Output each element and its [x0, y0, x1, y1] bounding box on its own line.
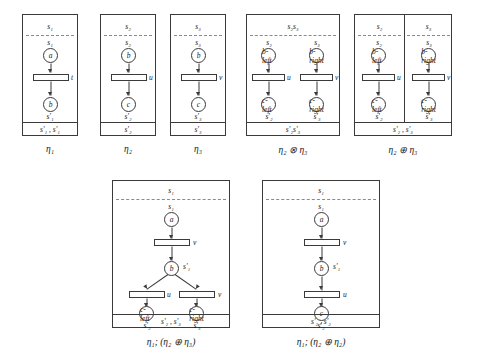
transition-u-label: u [397, 74, 401, 82]
figure-canvas: s₁ s₁ a t b s'₁ s'₁ , s'₁ η₁ s₂ s₂ b [0, 0, 478, 362]
transition-u [362, 74, 395, 81]
place-b-label: s'₁ [333, 263, 340, 271]
net-eta2-sum-eta3: s₂ s₃ s₂ b-left u c-left s'₂ s₃ b-right … [354, 14, 452, 136]
place-c-left-label: s'₂ [367, 113, 391, 121]
transition-t [33, 74, 69, 81]
place-b-left-name: b-left [262, 47, 275, 65]
place-b-name: b [320, 264, 324, 273]
place-b-name: b [127, 51, 131, 60]
transition-u-bottom-label: u [167, 291, 171, 299]
bottom-interface-label: s'₂ , s'₃ [113, 318, 229, 326]
transition-u-label: u [287, 74, 291, 82]
place-c-left-name: c-left [262, 96, 275, 114]
arrowhead-bl-u [266, 69, 270, 73]
arrowhead-a-t [48, 69, 52, 73]
place-b-left-label: s₂ [367, 39, 391, 47]
top-interface-label: s₂ [101, 23, 155, 31]
place-c-left: c-left [261, 97, 276, 112]
arrowhead-b-u [126, 69, 130, 73]
place-c-left-name: c-left [372, 96, 385, 114]
place-b: b [121, 48, 136, 63]
top-interface-rule [250, 35, 336, 36]
place-b-label: s'₁ [183, 263, 190, 271]
caption-tensor: η₂ ⊗ η₃ [246, 144, 340, 155]
bottom-interface-label: s'₂ [101, 126, 155, 134]
place-b: b [43, 97, 58, 112]
place-c: c [121, 97, 136, 112]
top-interface-rule [26, 35, 74, 36]
top-interface-rule [104, 35, 152, 36]
place-b-left: b-left [371, 48, 386, 63]
bottom-interface-rule [247, 122, 339, 123]
bottom-interface-rule [101, 122, 155, 123]
transition-u-bottom [129, 291, 165, 298]
place-c-name: c [127, 100, 130, 109]
top-interface-label: s₁ [263, 187, 379, 195]
place-b-left-name: b-left [372, 47, 385, 65]
place-a: a [43, 48, 58, 63]
top-interface-label: s₂s₃ [247, 23, 339, 31]
net-eta2: s₂ s₂ b u c s'₂ s'₂ η₂ [100, 14, 156, 136]
place-b-right-name: b-right [421, 47, 436, 65]
place-a-name: a [320, 215, 324, 224]
caption-seq-sum-22: η₁; (η₂ ⊕ η₂) [262, 336, 380, 347]
place-b-label: s₂ [101, 39, 155, 47]
top-interface-rule [116, 199, 226, 200]
top-interface-rule-left [358, 35, 401, 36]
place-a-label: s₁ [263, 203, 379, 211]
net-eta1-seq-sum-23: s₁ s₁ a v b s'₁ u v c-left s'₂ [112, 180, 230, 328]
place-b-right: b-right [421, 48, 436, 63]
arrowhead-bl-u [376, 69, 380, 73]
bottom-interface-label: s'₁ , s'₁ [23, 126, 77, 134]
place-a-label: s₁ [113, 203, 229, 211]
caption-sum: η₂ ⊕ η₃ [354, 144, 452, 155]
transition-u [304, 291, 340, 298]
top-interface-label: s₁ [23, 23, 77, 31]
place-c-right: c-right [309, 97, 324, 112]
bottom-interface-rule [263, 314, 379, 315]
place-a-name: a [170, 215, 174, 224]
top-interface-label: s₁ [113, 187, 229, 195]
net-seq-sum-22-box: s₁ s₁ a v b s'₁ u c s'₂ s'₂ , s'₂ [262, 180, 380, 328]
transition-u-label: u [343, 291, 347, 299]
place-b-label: s'₁ [23, 113, 77, 121]
transition-v [181, 74, 217, 81]
arrowhead-v-c [196, 92, 200, 96]
place-c-left-label: s'₂ [257, 113, 281, 121]
bottom-interface-rule [171, 122, 225, 123]
place-b: b [191, 48, 206, 63]
place-c-name: c [197, 100, 200, 109]
net-eta3-box: s₃ s₃ b v c s'₃ s'₃ [170, 14, 226, 136]
place-b: b [314, 261, 329, 276]
transition-v [412, 74, 445, 81]
place-c-right-name: c-right [421, 96, 436, 114]
place-c-right: c-right [421, 97, 436, 112]
place-b-name: b [49, 100, 53, 109]
place-c-right-label: s'₃ [417, 113, 441, 121]
place-c-right-name: c-right [309, 96, 324, 114]
place-b-right: b-right [309, 48, 324, 63]
net-tensor-box: s₂s₃ s₂ b-left u c-left s'₂ s₃ b-right v… [246, 14, 340, 136]
arrowhead-b-v [196, 69, 200, 73]
transition-v-bottom-label: v [218, 291, 221, 299]
place-b-right-label: s₃ [305, 39, 329, 47]
place-c-label: s'₃ [171, 113, 225, 121]
caption-eta2: η₂ [100, 144, 156, 154]
bottom-interface-rule [113, 314, 229, 315]
net-eta2-tensor-eta3: s₂s₃ s₂ b-left u c-left s'₂ s₃ b-right v… [246, 14, 340, 136]
transition-v-label: v [335, 74, 338, 82]
caption-eta1: η₁ [22, 144, 78, 154]
net-eta1: s₁ s₁ a t b s'₁ s'₁ , s'₁ η₁ [22, 14, 78, 136]
place-a-label: s₁ [23, 39, 77, 47]
net-eta2-box: s₂ s₂ b u c s'₂ s'₂ [100, 14, 156, 136]
place-b-right-name: b-right [309, 47, 324, 65]
bottom-interface-label: s'₃ [171, 126, 225, 134]
place-c-right-label: s'₃ [305, 113, 329, 121]
arrowhead-br-v [314, 69, 318, 73]
arc-b-to-u [146, 274, 168, 290]
net-eta1-seq-sum-22: s₁ s₁ a v b s'₁ u c s'₂ s'₂ , s'₂ η₁; (η… [262, 180, 380, 328]
top-interface-label: s₃ [171, 23, 225, 31]
bottom-interface-label: s'₂s'₃ [247, 126, 339, 134]
arrowhead-t-b [48, 92, 52, 96]
place-b-label: s₃ [171, 39, 225, 47]
